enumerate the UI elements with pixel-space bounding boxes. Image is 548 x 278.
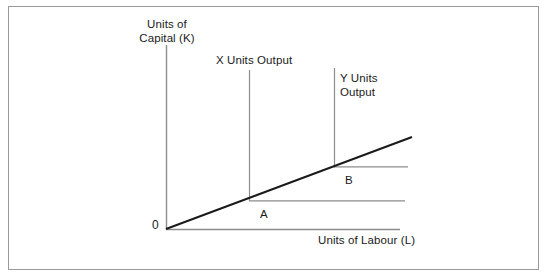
x-axis-title: Units of Labour (L) xyxy=(318,233,415,247)
x-units-output-label: X Units Output xyxy=(216,53,292,67)
y-axis-title: Units ofCapital (K) xyxy=(108,17,226,45)
y-units-output-label-line-2: Output xyxy=(340,86,375,98)
y-axis-title-line-1: Units of xyxy=(147,18,187,30)
y-axis-title-line-2: Capital (K) xyxy=(139,32,194,44)
production-ray-diagram xyxy=(0,0,548,278)
point-a-label: A xyxy=(260,207,268,221)
diagram-canvas: Units ofCapital (K) Units of Labour (L) … xyxy=(0,0,548,278)
y-units-output-label-line-1: Y Units xyxy=(340,72,378,84)
point-b-label: B xyxy=(345,173,353,187)
origin-label: 0 xyxy=(152,218,159,232)
expansion-path-ray xyxy=(166,137,412,229)
y-units-output-label: Y UnitsOutput xyxy=(340,71,378,99)
